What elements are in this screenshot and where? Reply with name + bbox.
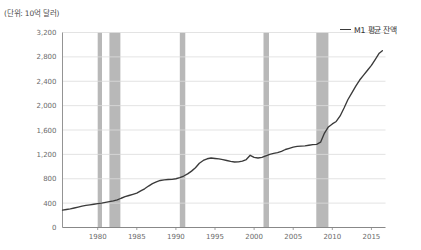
y-axis-tick-label: 2,800 <box>36 53 56 61</box>
x-axis-tick-label: 1990 <box>167 233 185 241</box>
x-axis-tick-label: 2010 <box>323 233 341 241</box>
legend: M1 평균 잔액 <box>340 24 397 35</box>
legend-label: M1 평균 잔액 <box>354 24 397 35</box>
line-chart-plot: 04008001,2001,6002,0002,4002,8003,200 19… <box>0 0 421 250</box>
x-axis-tick-labels: 19801985199019952000200520102015 <box>89 228 381 242</box>
y-axis-tick-label: 2,400 <box>36 78 56 86</box>
y-axis-tick-label: 1,600 <box>36 127 56 135</box>
y-axis-tick-label: 0 <box>52 224 56 232</box>
legend-line-swatch-icon <box>340 29 351 30</box>
y-axis-tick-label: 2,000 <box>36 102 56 110</box>
chart-container: (단위: 10억 달러) 04008001,2001,6002,0002,400… <box>0 0 421 250</box>
x-axis-tick-label: 1980 <box>89 233 107 241</box>
x-axis-tick-label: 1985 <box>128 233 146 241</box>
y-axis-tick-label: 400 <box>43 200 56 208</box>
y-axis-tick-label: 3,200 <box>36 29 56 37</box>
y-axis-tick-labels: 04008001,2001,6002,0002,4002,8003,200 <box>36 29 56 232</box>
y-axis-tick-label: 800 <box>43 175 56 183</box>
x-axis-tick-label: 2000 <box>245 233 263 241</box>
x-axis-tick-label: 2015 <box>363 233 381 241</box>
x-axis-tick-label: 1995 <box>206 233 224 241</box>
y-axis-tick-label: 1,200 <box>36 151 56 159</box>
x-axis-tick-label: 2005 <box>284 233 302 241</box>
